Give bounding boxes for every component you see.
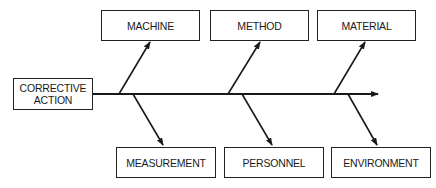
cause-box-machine: MACHINE	[101, 10, 200, 41]
rib-method	[228, 42, 260, 94]
cause-label: MACHINE	[127, 20, 174, 32]
rib-personnel	[242, 94, 272, 145]
rib-environment	[348, 94, 377, 145]
rib-measurement	[133, 94, 163, 145]
cause-box-personnel: PERSONNEL	[224, 147, 324, 178]
cause-box-material: MATERIAL	[317, 10, 416, 41]
effect-label-line2: ACTION	[34, 94, 72, 106]
rib-material	[334, 42, 365, 94]
effect-box-corrective-action: CORRECTIVE ACTION	[13, 78, 93, 110]
effect-label-line1: CORRECTIVE	[20, 82, 87, 94]
cause-label: ENVIRONMENT	[343, 157, 418, 169]
cause-label: METHOD	[237, 20, 281, 32]
cause-box-environment: ENVIRONMENT	[331, 147, 431, 178]
cause-label: MEASUREMENT	[126, 157, 205, 169]
cause-box-measurement: MEASUREMENT	[116, 147, 216, 178]
rib-machine	[119, 42, 150, 94]
cause-label: PERSONNEL	[243, 157, 306, 169]
cause-label: MATERIAL	[341, 20, 391, 32]
cause-box-method: METHOD	[210, 10, 309, 41]
